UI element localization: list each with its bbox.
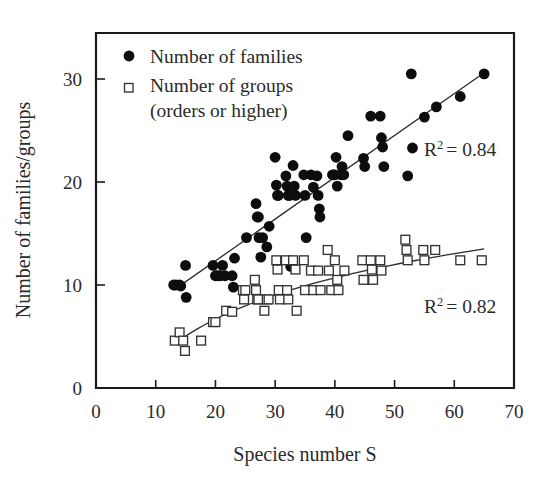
- data-point-groups: [456, 256, 465, 265]
- data-point-groups: [273, 265, 282, 274]
- data-point-groups: [403, 256, 412, 265]
- data-point-families: [331, 152, 342, 163]
- data-point-groups: [420, 256, 429, 265]
- x-tick-label-10: 10: [146, 401, 165, 422]
- data-point-groups: [272, 256, 281, 265]
- data-point-groups: [314, 266, 323, 275]
- data-point-groups: [292, 306, 301, 315]
- data-point-groups: [291, 265, 300, 274]
- r2-families-text: R2= 0.84: [424, 138, 497, 160]
- data-point-groups: [358, 256, 367, 265]
- data-point-families: [479, 68, 490, 79]
- data-point-groups: [333, 275, 342, 284]
- data-point-families: [253, 212, 264, 223]
- data-point-families: [419, 112, 430, 123]
- x-axis-ticks: [96, 380, 514, 388]
- data-point-families: [315, 212, 326, 223]
- r2-annotation-groups: R2= 0.82: [424, 295, 496, 317]
- data-point-families: [378, 161, 389, 172]
- data-point-groups: [228, 307, 237, 316]
- x-tick-label-30: 30: [266, 401, 285, 422]
- r2-groups-value: = 0.82: [446, 296, 496, 317]
- x-tick-label-50: 50: [385, 401, 404, 422]
- r2-families-superscript: 2: [437, 138, 443, 152]
- data-point-families: [241, 232, 252, 243]
- data-point-families: [338, 169, 349, 180]
- data-point-groups: [284, 295, 293, 304]
- data-point-groups: [330, 256, 339, 265]
- data-point-groups: [323, 246, 332, 255]
- data-point-families: [376, 132, 387, 143]
- data-point-families: [255, 252, 266, 263]
- data-point-families: [270, 152, 281, 163]
- data-point-groups: [431, 246, 440, 255]
- data-point-families: [375, 111, 386, 122]
- data-point-groups: [254, 295, 263, 304]
- data-point-groups: [402, 246, 411, 255]
- r2-groups-text: R2= 0.82: [424, 295, 496, 317]
- data-point-groups: [240, 295, 249, 304]
- data-point-groups: [289, 256, 298, 265]
- x-tick-label-60: 60: [445, 401, 464, 422]
- data-point-groups: [170, 336, 179, 345]
- data-point-groups: [241, 286, 250, 295]
- y-axis-ticks: [96, 79, 105, 388]
- y-tick-label-0: 0: [73, 378, 83, 399]
- x-tick-label-70: 70: [505, 401, 524, 422]
- data-point-groups: [179, 336, 188, 345]
- data-point-families: [365, 111, 376, 122]
- r2-groups-prefix: R: [424, 296, 437, 317]
- data-point-groups: [283, 286, 292, 295]
- data-point-families: [229, 253, 240, 264]
- r2-families-value: = 0.84: [446, 139, 496, 160]
- data-point-families: [228, 282, 239, 293]
- data-point-families: [257, 232, 268, 243]
- data-point-families: [251, 198, 262, 209]
- data-point-groups: [334, 286, 343, 295]
- data-point-groups: [401, 235, 410, 244]
- legend-marker-open-square: [125, 84, 134, 93]
- data-point-families: [271, 180, 282, 191]
- data-point-groups: [359, 275, 368, 284]
- data-point-families: [288, 160, 299, 171]
- legend: Number of families Number of groups (ord…: [124, 46, 303, 122]
- legend-label-families: Number of families: [150, 46, 303, 67]
- data-point-families: [290, 190, 301, 201]
- r2-annotation-families: R2= 0.84: [424, 138, 497, 160]
- x-axis-title: Species number S: [233, 443, 376, 466]
- data-point-groups: [340, 266, 349, 275]
- data-point-families: [301, 232, 312, 243]
- data-point-groups: [299, 256, 308, 265]
- data-point-groups: [367, 265, 376, 274]
- data-point-families: [181, 292, 192, 303]
- legend-label-groups: Number of groups: [150, 75, 293, 96]
- x-tick-label-20: 20: [206, 401, 225, 422]
- data-point-families: [273, 190, 284, 201]
- data-point-families: [312, 170, 323, 181]
- data-point-families: [313, 190, 324, 201]
- data-point-groups: [274, 286, 283, 295]
- data-point-families: [455, 91, 466, 102]
- data-point-groups: [276, 295, 285, 304]
- r2-families-prefix: R: [424, 139, 437, 160]
- data-point-groups: [181, 347, 190, 356]
- r2-groups-superscript: 2: [437, 295, 443, 309]
- data-point-groups: [252, 286, 261, 295]
- y-tick-label-20: 20: [63, 172, 82, 193]
- data-point-families: [175, 281, 186, 292]
- data-point-groups: [250, 275, 259, 284]
- data-point-families: [280, 170, 291, 181]
- data-point-families: [332, 181, 343, 192]
- legend-marker-filled-circle: [124, 51, 135, 62]
- data-point-families: [300, 190, 311, 201]
- data-point-groups: [477, 256, 486, 265]
- data-point-families: [227, 270, 238, 281]
- data-point-groups: [324, 266, 333, 275]
- data-point-groups: [260, 306, 269, 315]
- data-point-families: [264, 221, 275, 232]
- data-point-families: [343, 130, 354, 141]
- data-point-groups: [301, 286, 310, 295]
- data-point-groups: [366, 256, 375, 265]
- data-point-groups: [377, 266, 386, 275]
- y-axis-tick-labels: 0102030: [63, 69, 82, 399]
